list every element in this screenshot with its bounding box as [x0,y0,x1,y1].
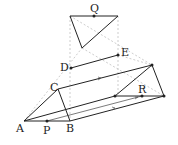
point-E [117,54,120,57]
construction-lines [24,16,164,121]
solid-lines [24,16,164,121]
edge-B-right [70,96,164,121]
label-P: P [43,124,51,137]
label-B: B [66,122,74,135]
label-R: R [138,83,147,96]
geometry-diagram: Q E D C R A P B [0,0,178,145]
label-Q: Q [90,2,99,15]
label-E: E [121,46,129,59]
point-P [46,120,49,123]
line-P-R [47,96,142,121]
point-prism-top [151,64,154,67]
top-triangle [70,16,118,48]
point-prism-right [163,95,166,98]
line-triangle-to-prism [70,16,152,65]
label-A: A [15,122,25,135]
label-D: D [60,61,69,74]
segment-DE [71,55,118,68]
triangle-ABC [24,89,70,121]
label-C: C [50,81,58,94]
point-prism-middle [114,95,117,98]
point-D [70,67,73,70]
